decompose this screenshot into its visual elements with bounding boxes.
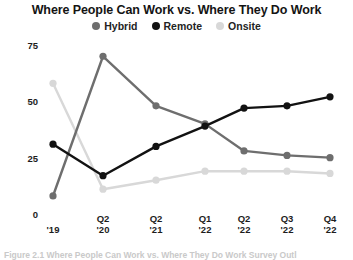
data-point[interactable] bbox=[326, 93, 333, 100]
data-point[interactable] bbox=[240, 168, 247, 175]
data-point[interactable] bbox=[99, 53, 106, 60]
data-point[interactable] bbox=[152, 177, 159, 184]
x-axis-tick-label: Q3'22 bbox=[281, 213, 294, 235]
x-axis-tick-label: Q4'22 bbox=[324, 213, 337, 235]
legend-item-remote[interactable]: Remote bbox=[152, 20, 203, 32]
data-point[interactable] bbox=[326, 170, 333, 177]
data-point[interactable] bbox=[99, 186, 106, 193]
x-axis-tick-label: Q2'20 bbox=[97, 213, 110, 235]
x-tick-line-2: '22 bbox=[199, 224, 212, 235]
y-axis-tick-label: 75 bbox=[14, 40, 38, 51]
x-tick-line-1: Q2 bbox=[150, 213, 163, 224]
x-tick-line-2: '22 bbox=[238, 224, 251, 235]
legend-swatch-onsite bbox=[216, 22, 224, 30]
plot-area: 0255075 bbox=[0, 36, 353, 222]
x-tick-line-2: '22 bbox=[324, 224, 337, 235]
data-point[interactable] bbox=[152, 102, 159, 109]
y-axis-tick-label: 50 bbox=[14, 96, 38, 107]
data-point[interactable] bbox=[240, 104, 247, 111]
legend-swatch-hybrid bbox=[92, 22, 100, 30]
x-axis-tick-label: Q2'21 bbox=[150, 213, 163, 235]
x-axis-tick-label: '19 bbox=[47, 224, 60, 235]
data-point[interactable] bbox=[283, 102, 290, 109]
x-tick-line-1: Q3 bbox=[281, 213, 294, 224]
data-point[interactable] bbox=[201, 168, 208, 175]
data-point[interactable] bbox=[152, 143, 159, 150]
legend-item-onsite[interactable]: Onsite bbox=[216, 20, 261, 32]
data-point[interactable] bbox=[240, 147, 247, 154]
series-onsite bbox=[49, 80, 333, 193]
x-axis: '19Q2'20Q2'21Q1'22Q2'22Q3'22Q4'22 bbox=[0, 212, 353, 242]
x-tick-line-2: '20 bbox=[97, 224, 110, 235]
x-tick-line-1: '19 bbox=[47, 224, 60, 235]
series-line bbox=[53, 56, 330, 196]
data-point[interactable] bbox=[49, 80, 56, 87]
x-tick-line-2: '22 bbox=[281, 224, 294, 235]
legend-label-remote: Remote bbox=[164, 20, 203, 32]
legend-swatch-remote bbox=[152, 22, 160, 30]
legend-label-hybrid: Hybrid bbox=[104, 20, 137, 32]
data-point[interactable] bbox=[49, 141, 56, 148]
x-axis-tick-label: Q2'22 bbox=[238, 213, 251, 235]
y-axis-tick-label: 25 bbox=[14, 152, 38, 163]
x-axis-tick-label: Q1'22 bbox=[199, 213, 212, 235]
x-tick-line-1: Q2 bbox=[97, 213, 110, 224]
data-point[interactable] bbox=[326, 154, 333, 161]
chart-title: Where People Can Work vs. Where They Do … bbox=[0, 3, 353, 17]
x-tick-line-1: Q4 bbox=[324, 213, 337, 224]
x-tick-line-1: Q2 bbox=[238, 213, 251, 224]
chart-caption: Figure 2.1 Where People Can Work vs. Whe… bbox=[0, 250, 353, 260]
legend-label-onsite: Onsite bbox=[228, 20, 261, 32]
data-point[interactable] bbox=[99, 172, 106, 179]
series-hybrid bbox=[49, 53, 333, 200]
x-tick-line-1: Q1 bbox=[199, 213, 212, 224]
chart-legend: Hybrid Remote Onsite bbox=[0, 20, 353, 32]
x-tick-line-2: '21 bbox=[150, 224, 163, 235]
data-point[interactable] bbox=[283, 168, 290, 175]
data-point[interactable] bbox=[283, 152, 290, 159]
data-point[interactable] bbox=[49, 192, 56, 199]
line-chart-canvas bbox=[0, 36, 353, 222]
data-point[interactable] bbox=[201, 123, 208, 130]
legend-item-hybrid[interactable]: Hybrid bbox=[92, 20, 137, 32]
